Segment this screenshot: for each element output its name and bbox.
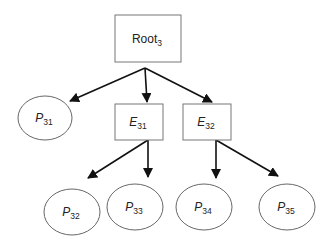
edge-e32-p35 — [216, 140, 278, 176]
node-p31: P31 — [18, 96, 72, 140]
node-p33: P33 — [107, 184, 163, 230]
edge-root3-e31 — [145, 68, 147, 102]
node-p34: P34 — [176, 184, 232, 230]
node-root3: Root3 — [115, 15, 181, 62]
node-p32: P32 — [44, 189, 100, 235]
edges — [70, 68, 278, 178]
tree-diagram: Root3 P31 E31 E32 P32 P33 P34 P35 — [0, 0, 330, 245]
edge-e31-p32 — [88, 140, 148, 178]
node-e32: E32 — [183, 104, 231, 140]
node-e31: E31 — [115, 104, 163, 140]
edge-root3-p31 — [70, 68, 145, 101]
edge-root3-e32 — [145, 68, 212, 102]
node-p35: P35 — [259, 184, 315, 230]
